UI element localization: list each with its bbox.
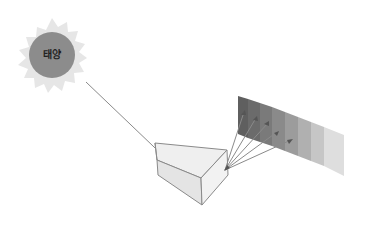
sun-label: 태양 bbox=[34, 46, 70, 61]
prism bbox=[155, 143, 228, 205]
prism-dispersion-diagram bbox=[0, 0, 365, 227]
spectrum-screen bbox=[238, 96, 344, 176]
